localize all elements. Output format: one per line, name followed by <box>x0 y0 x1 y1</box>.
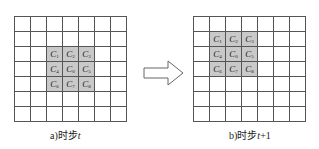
neighborhood-cell: C4 <box>47 62 63 77</box>
cell-label: C4 <box>50 65 59 74</box>
grid-cell <box>15 107 31 122</box>
cell-label: C0 <box>66 65 75 74</box>
cell-label: C3 <box>245 35 254 44</box>
cell-label: C8 <box>82 80 91 89</box>
grid-cell <box>194 47 210 62</box>
grid-cell <box>274 17 290 32</box>
grid-cell <box>290 17 306 32</box>
grid-cell <box>210 107 226 122</box>
grid-cell <box>226 17 242 32</box>
grid-cell <box>79 107 95 122</box>
grid-cell <box>258 17 274 32</box>
grid-cell <box>258 32 274 47</box>
grid-cell <box>31 17 47 32</box>
neighborhood-cell: C3 <box>242 32 258 47</box>
grid-cell <box>79 92 95 107</box>
grid-cell <box>258 47 274 62</box>
grid-cell <box>194 62 210 77</box>
grid-cell <box>111 92 127 107</box>
neighborhood-cell: C8 <box>79 77 95 92</box>
grid-cell <box>274 77 290 92</box>
caption-b-suffix: +1 <box>260 130 271 141</box>
grid-cell <box>47 107 63 122</box>
grid-cell <box>258 62 274 77</box>
cell-label: C7 <box>229 65 238 74</box>
grid-cell <box>111 17 127 32</box>
neighborhood-cell: C5 <box>242 47 258 62</box>
grid-cell <box>111 77 127 92</box>
grid-cell <box>290 32 306 47</box>
grid-cell <box>95 47 111 62</box>
cell-label: C1 <box>213 35 222 44</box>
grid-cell <box>242 92 258 107</box>
grid-cell <box>274 92 290 107</box>
neighborhood-cell: C3 <box>79 47 95 62</box>
cell-label: C4 <box>213 50 222 59</box>
neighborhood-cell: C1 <box>210 32 226 47</box>
neighborhood-cell: C8 <box>242 62 258 77</box>
grid-cell <box>274 47 290 62</box>
grid-cell <box>63 107 79 122</box>
grid-cell <box>111 47 127 62</box>
grid-cell <box>31 107 47 122</box>
grid-cell <box>290 107 306 122</box>
grid-time-step-t-plus-1: C1C2C3C4C0C5C6C7C8 <box>193 16 306 122</box>
grid-cell <box>95 77 111 92</box>
grid-cell <box>242 17 258 32</box>
grid-cell <box>63 32 79 47</box>
grid-cell <box>31 62 47 77</box>
grid-cell <box>31 77 47 92</box>
grid-cell <box>95 92 111 107</box>
cell-label: C1 <box>50 50 59 59</box>
grid-cell <box>15 32 31 47</box>
grid-cell <box>95 17 111 32</box>
caption-b: b)时步t+1 <box>229 127 271 142</box>
grid-cell <box>258 107 274 122</box>
grid-cell <box>274 32 290 47</box>
cell-label: C2 <box>229 35 238 44</box>
grid-cell <box>226 92 242 107</box>
grid-cell <box>63 17 79 32</box>
cell-label: C6 <box>213 65 222 74</box>
neighborhood-cell: C7 <box>226 62 242 77</box>
grid-cell <box>242 77 258 92</box>
neighborhood-cell: C2 <box>63 47 79 62</box>
grid-cell <box>194 92 210 107</box>
grid-cell <box>31 32 47 47</box>
grid-cell <box>15 47 31 62</box>
grid-cell <box>15 17 31 32</box>
caption-b-prefix: b)时步 <box>229 130 257 141</box>
cell-label: C7 <box>66 80 75 89</box>
cell-label: C6 <box>50 80 59 89</box>
caption-a: a)时步t <box>50 127 81 142</box>
grid-cell <box>290 77 306 92</box>
neighborhood-cell: C6 <box>210 62 226 77</box>
caption-a-prefix: a)时步 <box>50 130 78 141</box>
grid-cell <box>290 62 306 77</box>
grid-cell <box>15 62 31 77</box>
grid-cell <box>274 107 290 122</box>
grid-cell <box>63 92 79 107</box>
grid-cell <box>31 47 47 62</box>
grid-cell <box>111 62 127 77</box>
cell-label: C0 <box>229 50 238 59</box>
grid-cell <box>47 32 63 47</box>
grid-cell <box>210 92 226 107</box>
grid-cell <box>194 32 210 47</box>
grid-cell <box>226 77 242 92</box>
grid-cell <box>226 107 242 122</box>
grid-cell <box>79 17 95 32</box>
grid-cell <box>194 17 210 32</box>
grid-time-step-t: C1C2C3C4C0C5C6C7C8 <box>14 16 127 122</box>
grid-cell <box>79 32 95 47</box>
grid-cell <box>95 32 111 47</box>
grid-cell <box>258 77 274 92</box>
neighborhood-cell: C0 <box>226 47 242 62</box>
caption-a-var: t <box>78 130 81 141</box>
grid-cell <box>194 77 210 92</box>
cell-label: C5 <box>82 65 91 74</box>
grid-cell <box>242 107 258 122</box>
grid-cell <box>111 107 127 122</box>
cell-label: C3 <box>82 50 91 59</box>
grid-cell <box>210 17 226 32</box>
